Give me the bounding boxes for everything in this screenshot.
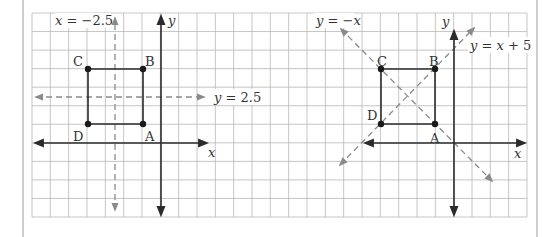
point-d bbox=[378, 121, 384, 127]
label-a: A bbox=[429, 131, 440, 146]
right-x-axis-label: x bbox=[514, 146, 522, 161]
label-b: B bbox=[145, 54, 155, 69]
figure-canvas: x = −2.5 y x y = 2.5 A B C D y = −x y = … bbox=[0, 0, 555, 237]
label-b: B bbox=[429, 54, 439, 69]
right-graph: y = −x y = x + 5 y x A B C D bbox=[314, 13, 531, 215]
point-c bbox=[85, 66, 91, 72]
label-d: D bbox=[73, 129, 83, 144]
label-y-eq-x-plus-5: y = x + 5 bbox=[469, 38, 531, 53]
left-y-axis-label: y bbox=[167, 13, 176, 28]
point-d bbox=[85, 121, 91, 127]
label-c: C bbox=[73, 54, 83, 69]
left-x-axis-label: x bbox=[208, 145, 216, 160]
label-y-2.5: y = 2.5 bbox=[213, 90, 261, 105]
label-a: A bbox=[144, 129, 155, 144]
point-a bbox=[432, 121, 438, 127]
label-c: C bbox=[377, 54, 387, 69]
label-x-neg2.5: x = −2.5 bbox=[55, 13, 113, 28]
label-d: D bbox=[367, 108, 377, 123]
grid bbox=[32, 13, 527, 217]
label-y-eq-neg-x: y = −x bbox=[315, 13, 361, 28]
point-a bbox=[140, 121, 146, 127]
right-y-axis-label: y bbox=[441, 14, 450, 29]
